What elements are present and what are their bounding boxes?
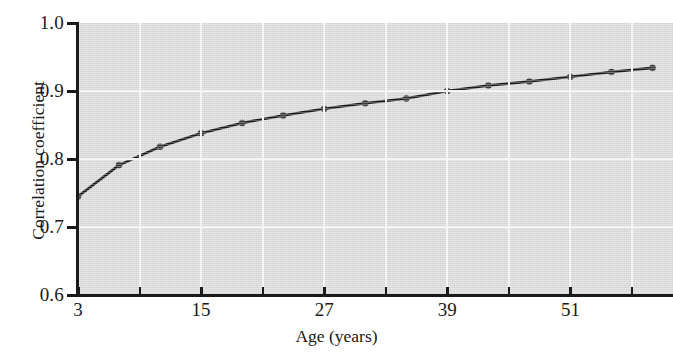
horizontal-gridline: [78, 90, 673, 92]
y-tick-mark: [67, 226, 77, 229]
y-tick-mark: [67, 90, 77, 93]
data-point-marker: [362, 100, 369, 107]
x-axis-spine: [76, 294, 673, 297]
data-point-marker: [649, 65, 656, 72]
y-tick-mark: [67, 22, 77, 25]
x-tick-label: 51: [550, 300, 590, 319]
x-tick-mark: [262, 287, 265, 296]
y-tick-label: 1.0: [8, 13, 64, 32]
plot-area: [78, 23, 673, 295]
x-tick-mark: [77, 287, 80, 296]
x-tick-mark: [569, 287, 572, 296]
x-tick-mark: [631, 287, 634, 296]
x-tick-label: 39: [427, 300, 467, 319]
y-tick-mark: [67, 158, 77, 161]
x-tick-label: 15: [181, 300, 221, 319]
data-point-marker: [116, 162, 123, 169]
chart-figure: 0.60.70.80.91.0 315273951 Correlation co…: [0, 0, 673, 354]
x-tick-mark: [446, 287, 449, 296]
series-polyline: [78, 68, 652, 197]
data-point-marker: [157, 143, 164, 150]
x-tick-mark: [323, 287, 326, 296]
y-tick-mark: [67, 294, 77, 297]
data-point-marker: [403, 95, 410, 102]
data-point-marker: [239, 120, 246, 127]
x-tick-mark: [385, 287, 388, 296]
horizontal-gridline: [78, 158, 673, 160]
x-tick-mark: [508, 287, 511, 296]
horizontal-gridline: [78, 226, 673, 228]
x-tick-mark: [200, 287, 203, 296]
x-tick-mark: [139, 287, 142, 296]
data-point-marker: [280, 112, 287, 119]
data-point-marker: [485, 82, 492, 89]
data-point-marker: [608, 69, 615, 76]
x-axis-title: Age (years): [0, 326, 673, 347]
y-axis-title: Correlation coefficient: [28, 31, 49, 291]
x-tick-label: 3: [58, 300, 98, 319]
data-point-marker: [526, 78, 533, 85]
x-tick-label: 27: [304, 300, 344, 319]
